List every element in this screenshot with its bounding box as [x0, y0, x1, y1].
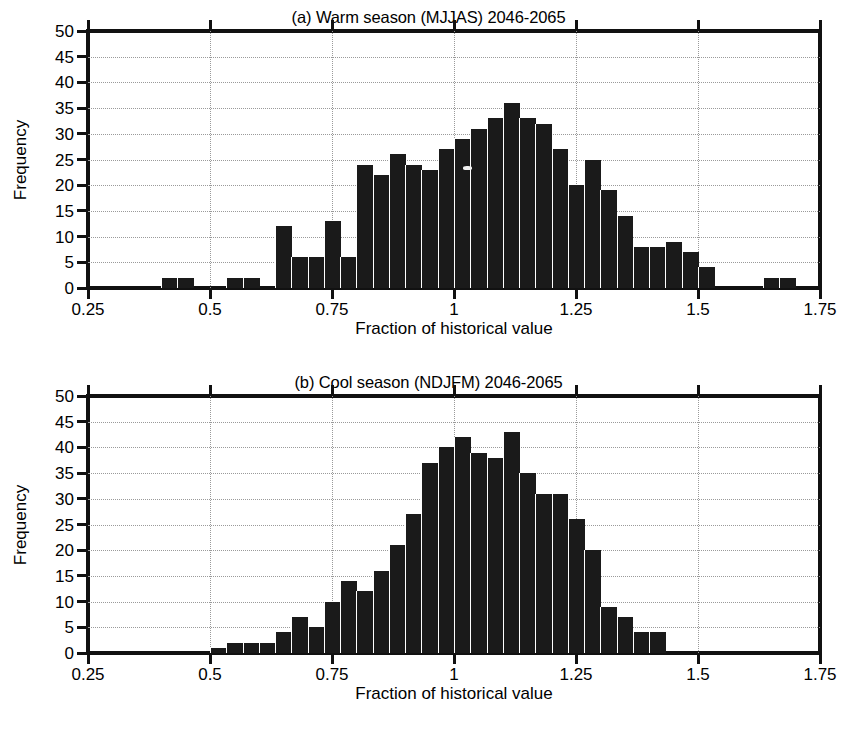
- panel-a-title: (a) Warm season (MJJAS) 2046-2065: [0, 8, 857, 27]
- histogram-bar: [649, 247, 666, 288]
- histogram-bar: [405, 514, 422, 653]
- histogram-bar: [275, 226, 292, 288]
- histogram-bar: [356, 591, 373, 653]
- y-axis-tick-label: 50: [55, 388, 74, 405]
- x-axis-tick: [331, 288, 334, 299]
- histogram-bar: [617, 617, 634, 653]
- x-axis-tick-top: [453, 385, 456, 396]
- panel-b-title: (b) Cool season (NDJFM) 2046-2065: [0, 373, 857, 392]
- x-axis-tick-top: [209, 20, 212, 31]
- histogram-bar: [324, 221, 341, 288]
- x-axis-tick-top: [87, 20, 90, 31]
- histogram-bar: [535, 494, 552, 653]
- histogram-bar: [454, 437, 471, 653]
- y-axis-tick: [77, 600, 88, 603]
- x-axis-tick-label: 0.25: [71, 666, 104, 683]
- x-axis-tick: [331, 653, 334, 664]
- y-axis-tick-label: 30: [55, 125, 74, 142]
- x-axis-tick-top: [819, 20, 822, 31]
- x-axis-tick-top: [697, 385, 700, 396]
- histogram-bar: [600, 190, 617, 288]
- y-axis-tick-label: 30: [55, 490, 74, 507]
- histogram-bar: [535, 124, 552, 288]
- histogram-bar: [421, 463, 438, 653]
- histogram-bar: [259, 643, 276, 653]
- y-axis-tick: [77, 209, 88, 212]
- y-axis-tick-label: 40: [55, 439, 74, 456]
- x-axis-tick: [575, 653, 578, 664]
- y-axis-tick-label: 45: [55, 48, 74, 65]
- y-axis-tick: [77, 158, 88, 161]
- y-axis-tick-label: 50: [55, 23, 74, 40]
- x-axis-tick-top: [87, 385, 90, 396]
- histogram-bar: [324, 602, 341, 653]
- histogram-bar: [340, 257, 357, 288]
- histogram-bar: [503, 432, 520, 653]
- histogram-bar: [454, 139, 471, 288]
- histogram-bar: [552, 149, 569, 288]
- y-axis-tick: [77, 446, 88, 449]
- x-axis-tick-label: 1: [449, 666, 458, 683]
- y-axis-tick: [77, 81, 88, 84]
- y-axis-tick: [77, 55, 88, 58]
- histogram-bar: [291, 257, 308, 288]
- histogram-bar: [405, 165, 422, 288]
- y-axis-tick: [77, 574, 88, 577]
- y-axis-tick-label: 10: [55, 228, 74, 245]
- x-axis-tick: [453, 288, 456, 299]
- histogram-bar: [389, 545, 406, 653]
- y-axis-tick-label: 15: [55, 202, 74, 219]
- histogram-bar: [340, 581, 357, 653]
- x-axis-tick-label: 1.75: [803, 666, 836, 683]
- histogram-bar: [226, 643, 243, 653]
- x-axis-tick-label: 0.5: [198, 301, 222, 318]
- panel-a-plot-area: 051015202530354045500.250.50.7511.251.51…: [88, 31, 820, 288]
- x-axis-tick: [87, 653, 90, 664]
- x-axis-tick-top: [575, 20, 578, 31]
- x-axis-tick-top: [209, 385, 212, 396]
- y-axis-tick-label: 35: [55, 465, 74, 482]
- y-axis-tick-label: 45: [55, 413, 74, 430]
- x-axis-tick: [697, 653, 700, 664]
- y-axis-tick: [77, 184, 88, 187]
- histogram-bar: [665, 242, 682, 288]
- y-axis-tick-label: 20: [55, 542, 74, 559]
- x-axis-tick: [819, 653, 822, 664]
- histogram-bar: [763, 278, 780, 288]
- y-axis-tick-label: 35: [55, 100, 74, 117]
- histogram-bar: [356, 165, 373, 288]
- histogram-bar: [568, 519, 585, 653]
- histogram-bar: [210, 648, 227, 653]
- y-axis-tick-label: 5: [65, 619, 74, 636]
- histogram-bar: [682, 252, 699, 288]
- x-axis-tick-label: 0.75: [315, 301, 348, 318]
- panel-cool-season: (b) Cool season (NDJFM) 2046-2065 Freque…: [0, 365, 857, 729]
- x-axis-tick: [209, 288, 212, 299]
- histogram-bar: [373, 175, 390, 288]
- figure-two-panel-histograms: (a) Warm season (MJJAS) 2046-2065 Freque…: [0, 0, 857, 729]
- x-axis-tick-top: [819, 385, 822, 396]
- histogram-bar: [552, 494, 569, 653]
- histogram-bar: [275, 632, 292, 653]
- y-axis-tick-label: 10: [55, 593, 74, 610]
- x-axis-tick-top: [331, 20, 334, 31]
- y-axis-tick-label: 25: [55, 516, 74, 533]
- x-axis-tick: [87, 288, 90, 299]
- x-axis-tick-label: 1.75: [803, 301, 836, 318]
- histogram-bar: [779, 278, 796, 288]
- histogram-bar: [421, 170, 438, 288]
- panel-a-bars: [88, 31, 820, 288]
- y-axis-tick-label: 25: [55, 151, 74, 168]
- x-axis-tick: [819, 288, 822, 299]
- x-axis-tick-top: [575, 385, 578, 396]
- histogram-bar: [177, 278, 194, 288]
- y-axis-tick-label: 40: [55, 74, 74, 91]
- histogram-bar: [389, 154, 406, 288]
- y-axis-tick-label: 20: [55, 177, 74, 194]
- panel-b-plot-area: 051015202530354045500.250.50.7511.251.51…: [88, 396, 820, 653]
- histogram-bar: [633, 247, 650, 288]
- y-axis-tick: [77, 132, 88, 135]
- histogram-bar: [487, 458, 504, 653]
- y-axis-tick: [77, 549, 88, 552]
- histogram-bar: [226, 278, 243, 288]
